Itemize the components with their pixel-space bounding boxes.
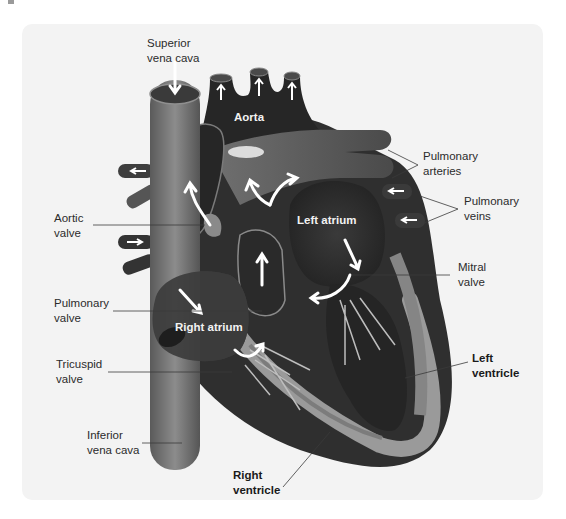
label-mitral-valve: Mitral valve [458, 260, 486, 290]
label-pulmonary-veins: Pulmonary veins [464, 194, 519, 224]
right-atrium-overlay [152, 271, 248, 361]
label-inferior-vena-cava: Inferior vena cava [87, 428, 139, 458]
label-aorta: Aorta [234, 110, 264, 125]
label-pulmonary-arteries: Pulmonary arteries [423, 149, 478, 179]
label-aortic-valve: Aortic valve [54, 211, 83, 241]
label-superior-vena-cava: Superior vena cava [147, 36, 199, 66]
label-right-atrium: Right atrium [175, 320, 243, 335]
label-right-ventricle: Right ventricle [233, 468, 280, 498]
label-left-ventricle: Left ventricle [472, 351, 519, 381]
svc-arrow [170, 62, 180, 93]
label-left-atrium: Left atrium [297, 213, 356, 228]
label-tricuspid-valve: Tricuspid valve [56, 357, 102, 387]
label-pulmonary-valve: Pulmonary valve [54, 296, 109, 326]
left-atrium-chamber [289, 181, 385, 287]
